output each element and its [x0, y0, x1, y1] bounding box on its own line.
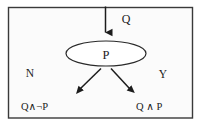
- outcome-formula-no: Q∧¬P: [21, 101, 48, 112]
- outcome-formula-yes: Q ∧ P: [136, 101, 163, 112]
- branch-label-yes: Y: [159, 68, 168, 80]
- diagram-canvas: Q P N Y Q∧¬P Q ∧ P: [0, 0, 201, 129]
- decision-node-label: P: [103, 48, 110, 62]
- logic-diagram: Q P N Y Q∧¬P Q ∧ P: [0, 0, 201, 129]
- branch-label-no: N: [26, 67, 35, 79]
- input-label: Q: [122, 12, 131, 26]
